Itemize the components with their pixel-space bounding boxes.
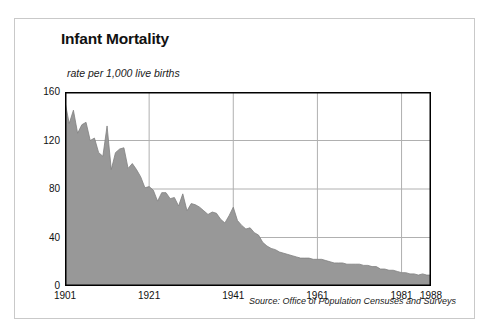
y-tick-label: 160 (43, 87, 60, 97)
y-tick-label: 80 (49, 184, 60, 194)
x-tick-label: 1941 (222, 291, 244, 301)
x-tick-label: 1901 (54, 291, 76, 301)
source-note: Source: Office of Population Censuses an… (249, 296, 456, 306)
area-chart-svg (65, 92, 431, 286)
chart-title: Infant Mortality (61, 30, 169, 48)
plot-area: 04080120160 190119211941196119811988 (65, 92, 431, 286)
x-tick-label: 1921 (138, 291, 160, 301)
mortality-area-series (65, 102, 431, 286)
figure-frame: Infant Mortality rate per 1,000 live bir… (14, 18, 475, 319)
y-tick-label: 120 (43, 136, 60, 146)
y-tick-label: 40 (49, 233, 60, 243)
chart-axis-units-label: rate per 1,000 live births (67, 67, 180, 79)
